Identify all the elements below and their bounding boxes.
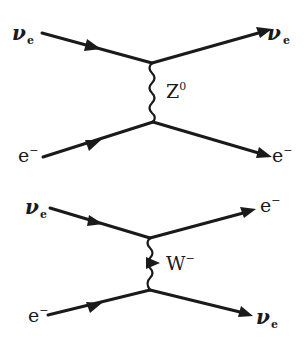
z-boson-propagator: [150, 63, 155, 122]
label-nu-e-in: νe: [12, 21, 34, 47]
arrow-icon: [240, 207, 256, 218]
label-nu-e-in: νe: [25, 195, 47, 221]
label-w-boson: W−: [166, 252, 195, 274]
label-nu-e-out: νe: [256, 305, 278, 331]
arrow-icon: [256, 147, 272, 158]
incoming-electron-line: [48, 290, 150, 315]
arrow-icon: [238, 306, 253, 317]
feynman-diagrams: νe νe e− e− Z0 νe e− e− νe W−: [0, 0, 306, 348]
label-electron-out: e−: [272, 144, 292, 166]
arrow-icon: [84, 39, 101, 51]
label-electron-out: e−: [260, 194, 280, 216]
outgoing-neutrino-line: [150, 290, 244, 313]
outgoing-neutrino-line: [152, 32, 262, 63]
label-electron-in: e−: [28, 304, 48, 326]
outgoing-electron-line: [150, 212, 247, 238]
arrow-icon: [146, 257, 160, 269]
diagram-w-exchange: νe e− e− νe W−: [25, 194, 280, 331]
label-electron-in: e−: [18, 144, 38, 166]
label-z-boson: Z0: [166, 80, 186, 102]
arrow-icon: [86, 302, 102, 313]
incoming-electron-line: [43, 122, 153, 157]
arrow-icon: [85, 140, 101, 151]
diagram-z-exchange: νe νe e− e− Z0: [12, 21, 292, 166]
outgoing-electron-line: [153, 122, 262, 154]
label-nu-e-out: νe: [267, 21, 290, 47]
